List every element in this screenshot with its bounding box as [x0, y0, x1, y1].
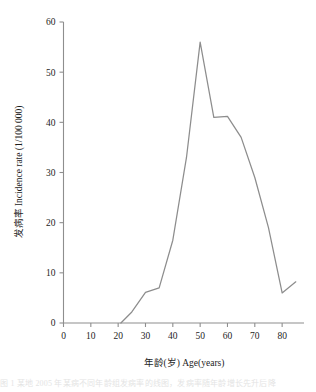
x-tick-label: 80: [277, 331, 287, 341]
x-tick-label: 0: [61, 331, 66, 341]
figure-caption: 图 1 某地 2005 年某病不同年龄组发病率的线图，发病率随年龄增长先升后降: [0, 376, 316, 392]
chart-canvas: 0102030405060 01020304050607080 发病率 Inci…: [0, 0, 316, 392]
x-tick-label: 60: [223, 331, 233, 341]
y-tick-label: 0: [51, 318, 56, 328]
x-tick-label: 10: [86, 331, 96, 341]
y-tick-label: 60: [46, 17, 56, 27]
x-tick-label: 40: [168, 331, 178, 341]
x-tick-label: 70: [250, 331, 260, 341]
x-axis-title: 年龄(岁) Age(years): [144, 357, 225, 369]
y-axis-title: 发病率 Incidence rate (1/100 000): [13, 106, 25, 239]
y-tick-label: 20: [46, 218, 56, 228]
y-tick-label: 10: [46, 268, 56, 278]
y-tick-label: 50: [46, 68, 56, 78]
x-tick-label: 20: [113, 331, 123, 341]
figure-caption-strip: 图 1 某地 2005 年某病不同年龄组发病率的线图，发病率随年龄增长先升后降: [0, 376, 316, 392]
x-tick-label: 50: [195, 331, 205, 341]
y-tick-label: 30: [46, 168, 56, 178]
incidence-rate-line-chart: 0102030405060 01020304050607080 发病率 Inci…: [0, 0, 316, 392]
x-tick-label: 30: [141, 331, 151, 341]
chart-background: [0, 0, 316, 392]
y-tick-label: 40: [46, 118, 56, 128]
